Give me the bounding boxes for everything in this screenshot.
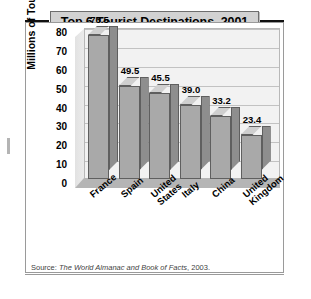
bar-side-face <box>170 84 179 170</box>
y-axis-tick-20: 20 <box>41 140 67 151</box>
chart-plot-container: Millions of Tourists 01020304050607080 7… <box>27 24 284 239</box>
x-axis-category-labels: FranceSpainUnited StatesItalyChinaUnited… <box>75 192 285 238</box>
bar-value-label: 49.5 <box>121 65 140 76</box>
page-edge-mark <box>7 138 10 154</box>
y-axis-title: Millions of Tourists <box>25 0 39 82</box>
bar-front-face <box>119 86 140 179</box>
source-note: Source: The World Almanac and Book of Fa… <box>31 263 281 272</box>
y-axis-tick-0: 0 <box>41 178 67 189</box>
bar-top-face <box>119 77 140 86</box>
bar-front-face <box>88 35 109 179</box>
bar-side-face <box>231 107 240 170</box>
bar-united-kingdom[interactable]: 23.4 <box>241 126 262 179</box>
bar-spain[interactable]: 49.5 <box>119 77 140 179</box>
bar-top-face <box>88 26 109 35</box>
bar-top-face <box>149 84 170 93</box>
source-label: Source: <box>31 263 59 272</box>
plot-area: 76.549.545.539.033.223.4 <box>75 28 280 188</box>
bar-united-states[interactable]: 45.5 <box>149 84 170 179</box>
y-axis-tick-labels: 01020304050607080 <box>41 28 67 188</box>
bar-front-face <box>149 93 170 179</box>
bar-value-label: 76.5 <box>90 14 109 25</box>
source-year: , 2003. <box>187 263 210 272</box>
bar-china[interactable]: 33.2 <box>210 107 231 179</box>
bar-side-face <box>262 126 271 170</box>
bar-italy[interactable]: 39.0 <box>180 96 201 179</box>
y-axis-tick-80: 80 <box>41 27 67 38</box>
bar-value-label: 45.5 <box>151 72 170 83</box>
bar-front-face <box>241 135 262 179</box>
y-axis-tick-10: 10 <box>41 159 67 170</box>
y-axis-tick-30: 30 <box>41 121 67 132</box>
bar-series: 76.549.545.539.033.223.4 <box>84 28 280 179</box>
y-axis-tick-60: 60 <box>41 64 67 75</box>
source-publication: The World Almanac and Book of Facts <box>59 263 187 272</box>
bar-top-face <box>180 96 201 105</box>
bar-front-face <box>210 116 231 179</box>
bar-side-face <box>109 26 118 170</box>
bar-top-face <box>210 107 231 116</box>
bar-value-label: 23.4 <box>243 114 261 125</box>
bar-side-face <box>140 77 149 170</box>
bar-side-face <box>201 96 210 170</box>
source-divider <box>25 274 284 275</box>
y-axis-tick-40: 40 <box>41 102 67 113</box>
bar-france[interactable]: 76.5 <box>88 26 109 179</box>
chart-figure-frame: Millions of Tourists 01020304050607080 7… <box>25 22 284 273</box>
bar-value-label: 39.0 <box>182 84 201 95</box>
y-axis-tick-50: 50 <box>41 83 67 94</box>
bar-top-face <box>241 126 262 135</box>
bar-value-label: 33.2 <box>212 95 231 106</box>
bar-front-face <box>180 105 201 179</box>
y-axis-tick-70: 70 <box>41 45 67 56</box>
